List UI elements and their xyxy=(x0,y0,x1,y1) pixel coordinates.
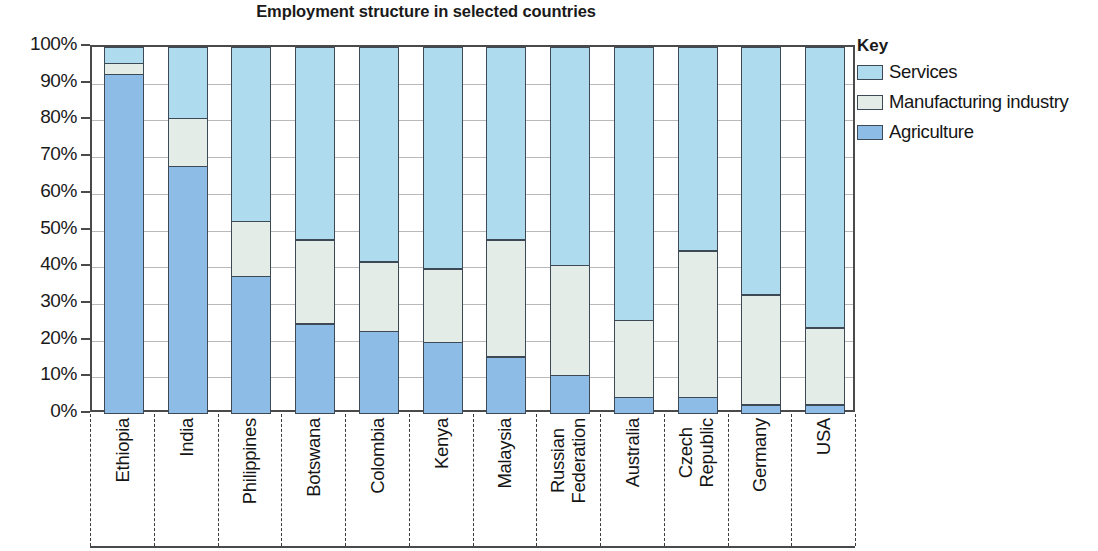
bar-segment-manufacturing[interactable] xyxy=(424,270,462,343)
bar-segment-services[interactable] xyxy=(296,47,334,241)
bar-group[interactable] xyxy=(104,47,144,414)
stacked-bar[interactable] xyxy=(168,47,208,414)
stacked-bar[interactable] xyxy=(295,47,335,414)
bar-segment-services[interactable] xyxy=(232,47,270,222)
segment-divider xyxy=(615,397,653,399)
x-tick-label: Kenya xyxy=(430,418,451,469)
x-tick-label: Germany xyxy=(749,418,770,492)
bar-segment-services[interactable] xyxy=(169,47,207,119)
x-tick-label: India xyxy=(175,418,196,457)
bar-segment-manufacturing[interactable] xyxy=(679,252,717,399)
category-separator xyxy=(855,414,856,546)
bar-segment-services[interactable] xyxy=(360,47,398,263)
category-separator xyxy=(281,414,282,546)
bar-segment-services[interactable] xyxy=(742,47,780,296)
bar-segment-services[interactable] xyxy=(487,47,525,241)
bar-segment-manufacturing[interactable] xyxy=(169,119,207,167)
legend-swatch-icon xyxy=(857,95,883,110)
y-tick-label: 20% xyxy=(5,327,77,349)
segment-divider xyxy=(232,276,270,278)
bar-segment-manufacturing[interactable] xyxy=(806,329,844,406)
x-axis-baseline xyxy=(90,546,855,548)
bar-segment-manufacturing[interactable] xyxy=(615,321,653,398)
segment-divider xyxy=(551,375,589,377)
legend-entry[interactable]: Services xyxy=(857,61,1098,83)
bar-segment-agriculture[interactable] xyxy=(615,398,653,413)
bar-segment-services[interactable] xyxy=(679,47,717,252)
x-tick-label-slot: India xyxy=(166,418,206,544)
segment-divider xyxy=(169,166,207,168)
bar-segment-manufacturing[interactable] xyxy=(487,241,525,358)
bar-segment-agriculture[interactable] xyxy=(360,332,398,413)
segment-divider xyxy=(742,294,780,296)
y-tick-label: 30% xyxy=(5,290,77,312)
bar-group[interactable] xyxy=(359,47,399,414)
bar-segment-services[interactable] xyxy=(615,47,653,321)
stacked-bar[interactable] xyxy=(359,47,399,414)
stacked-bar[interactable] xyxy=(550,47,590,414)
y-tick-mark xyxy=(81,338,90,340)
segment-divider xyxy=(551,265,589,267)
bar-segment-agriculture[interactable] xyxy=(806,406,844,413)
bar-segment-agriculture[interactable] xyxy=(296,325,334,413)
stacked-bar[interactable] xyxy=(614,47,654,414)
segment-divider xyxy=(424,342,462,344)
bar-group[interactable] xyxy=(295,47,335,414)
x-tick-label: CzechRepublic xyxy=(675,418,717,488)
legend-entry[interactable]: Agriculture xyxy=(857,121,1098,143)
segment-divider xyxy=(806,327,844,329)
y-tick-mark xyxy=(81,264,90,266)
category-separator xyxy=(345,414,346,546)
bar-segment-agriculture[interactable] xyxy=(169,167,207,413)
segment-divider xyxy=(742,404,780,406)
bar-group[interactable] xyxy=(550,47,590,414)
bar-group[interactable] xyxy=(486,47,526,414)
bar-segment-manufacturing[interactable] xyxy=(742,296,780,406)
bar-segment-manufacturing[interactable] xyxy=(232,222,270,277)
bar-group[interactable] xyxy=(741,47,781,414)
y-tick-mark xyxy=(81,44,90,46)
category-separator xyxy=(218,414,219,546)
segment-divider xyxy=(105,63,143,65)
bar-segment-services[interactable] xyxy=(806,47,844,329)
bar-segment-agriculture[interactable] xyxy=(742,406,780,413)
bar-segment-agriculture[interactable] xyxy=(487,358,525,413)
category-separator xyxy=(728,414,729,546)
y-tick-label: 90% xyxy=(5,70,77,92)
legend-entry[interactable]: Manufacturing industry xyxy=(857,91,1098,113)
stacked-bar[interactable] xyxy=(486,47,526,414)
bar-group[interactable] xyxy=(423,47,463,414)
bar-segment-services[interactable] xyxy=(105,47,143,64)
bar-segment-agriculture[interactable] xyxy=(679,398,717,413)
bar-segment-manufacturing[interactable] xyxy=(296,241,334,325)
category-separator xyxy=(791,414,792,546)
y-tick-mark xyxy=(81,301,90,303)
stacked-bar[interactable] xyxy=(805,47,845,414)
bar-group[interactable] xyxy=(231,47,271,414)
x-tick-label: Philippines xyxy=(239,418,260,504)
bar-segment-agriculture[interactable] xyxy=(105,75,143,413)
stacked-bar[interactable] xyxy=(741,47,781,414)
stacked-bar[interactable] xyxy=(678,47,718,414)
segment-divider xyxy=(296,239,334,241)
bar-group[interactable] xyxy=(168,47,208,414)
legend-entries: ServicesManufacturing industryAgricultur… xyxy=(857,61,1098,143)
bar-segment-services[interactable] xyxy=(424,47,462,270)
bar-segment-agriculture[interactable] xyxy=(232,277,270,413)
bar-segment-agriculture[interactable] xyxy=(551,376,589,413)
bar-group[interactable] xyxy=(805,47,845,414)
stacked-bar[interactable] xyxy=(423,47,463,414)
legend-label: Manufacturing industry xyxy=(889,91,1068,113)
bar-segment-services[interactable] xyxy=(551,47,589,266)
segment-divider xyxy=(360,331,398,333)
bar-segment-manufacturing[interactable] xyxy=(360,263,398,333)
stacked-bar[interactable] xyxy=(231,47,271,414)
bar-segment-agriculture[interactable] xyxy=(424,343,462,413)
bar-segment-manufacturing[interactable] xyxy=(551,266,589,376)
bar-group[interactable] xyxy=(614,47,654,414)
x-tick-label-slot: CzechRepublic xyxy=(676,418,716,544)
stacked-bar[interactable] xyxy=(104,47,144,414)
y-tick-mark xyxy=(81,191,90,193)
bar-group[interactable] xyxy=(678,47,718,414)
y-tick-label: 60% xyxy=(5,180,77,202)
